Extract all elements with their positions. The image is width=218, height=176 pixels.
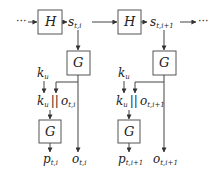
- gen-bottom-box-1-label: G: [45, 124, 55, 139]
- o-label-1: ot,i: [72, 152, 87, 167]
- concat-label-2: ku||ot,i+1: [116, 94, 165, 109]
- p-label-1: pt,i: [43, 152, 58, 167]
- o-label-2: ot,i+1: [153, 152, 178, 167]
- gen-top-box-1-label: G: [73, 55, 83, 70]
- state-label-2: st,i+1: [150, 15, 174, 30]
- concat-label-1: ku||ot,i: [37, 94, 75, 109]
- hash-chain-diagram: ··· H st,i G ku ku||ot,i G pt,i ot,i H: [0, 0, 218, 176]
- arrow-g1-to-concat: [56, 82, 78, 93]
- hash-box-1-label: H: [44, 14, 57, 29]
- gen-bottom-box-2-label: G: [124, 124, 134, 139]
- continuation-left: ···: [16, 15, 27, 28]
- stage-2: H st,i+1 ··· G ku ku||ot,i+1 G pt,i+1 ot…: [116, 10, 209, 167]
- gen-top-box-2-label: G: [159, 55, 169, 70]
- state-label-1: st,i: [68, 15, 81, 30]
- stage-1: H st,i G ku ku||ot,i G pt,i ot,i: [37, 10, 117, 167]
- hash-box-2-label: H: [123, 14, 136, 29]
- p-label-2: pt,i+1: [118, 152, 143, 167]
- arrow-g2-to-concat: [135, 82, 164, 93]
- continuation-right: ···: [198, 15, 209, 28]
- key-label-2: ku: [118, 66, 130, 81]
- key-label-1: ku: [37, 66, 49, 81]
